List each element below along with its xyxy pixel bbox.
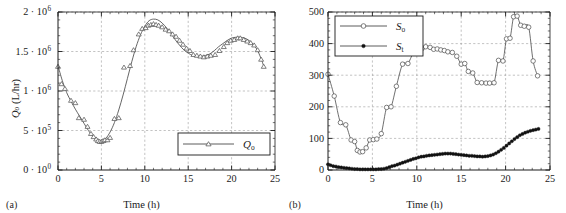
- y-tick-labels: 0100200300400500: [309, 6, 324, 175]
- data-point: [343, 123, 348, 128]
- svg-text:2 · 10: 2 · 10: [23, 6, 47, 17]
- y-tick-label: 400: [309, 38, 324, 49]
- y-tick-label: 1 · 106: [23, 84, 51, 96]
- x-tick-labels: 0510152025: [55, 173, 280, 184]
- data-point: [406, 61, 411, 66]
- data-point: [526, 25, 531, 30]
- x-tick-labels: 0510152025: [325, 173, 555, 184]
- x-tick-label: 10: [412, 173, 422, 184]
- data-point: [360, 149, 365, 154]
- y-tick-label: 100: [309, 133, 324, 144]
- data-point: [502, 146, 505, 149]
- chart-a-y-unit: (L/hr): [10, 79, 21, 107]
- data-point: [470, 71, 475, 76]
- x-tick-label: 0: [325, 173, 330, 184]
- data-point: [446, 50, 451, 55]
- y-tick-label: 200: [309, 101, 324, 112]
- x-tick-label: 15: [456, 173, 466, 184]
- x-tick-label: 10: [140, 173, 150, 184]
- y-tick-label: 0 · 100: [23, 163, 51, 175]
- svg-text:5 · 10: 5 · 10: [23, 125, 47, 136]
- svg-text:1.5 · 10: 1.5 · 10: [16, 46, 47, 57]
- data-point: [400, 62, 405, 67]
- svg-text:0 · 10: 0 · 10: [23, 164, 47, 175]
- chart-b-x-axis-title: Time (h): [283, 199, 566, 210]
- chart-a-canvas: 05101520250 · 1005 · 1051 · 1061.5 · 106…: [0, 0, 283, 213]
- data-point: [128, 63, 133, 67]
- x-tick-label: 25: [545, 173, 555, 184]
- y-tick-label: 5 · 105: [23, 124, 51, 136]
- y-tick-label: 0: [319, 164, 324, 175]
- y-tick-label: 2 · 106: [23, 5, 51, 17]
- data-point: [108, 135, 113, 139]
- y-tick-label: 1.5 · 106: [16, 45, 52, 57]
- data-point: [352, 139, 357, 144]
- data-point: [466, 69, 471, 74]
- data-point: [454, 54, 459, 59]
- svg-text:6: 6: [48, 45, 52, 53]
- y-tick-label: 300: [309, 70, 324, 81]
- svg-text:5: 5: [48, 124, 52, 132]
- data-point: [522, 24, 527, 29]
- series-line: [58, 19, 264, 141]
- series-markers: [56, 22, 267, 144]
- data-point: [531, 59, 536, 64]
- data-point: [177, 38, 182, 42]
- chart-a-caption: (a): [6, 199, 17, 210]
- data-point: [462, 61, 467, 66]
- data-point: [361, 24, 366, 29]
- chart-b-canvas: 05101520250100200300400500SoSt: [283, 0, 566, 213]
- data-point: [221, 45, 226, 49]
- data-point: [537, 127, 540, 130]
- data-point: [62, 86, 67, 90]
- x-tick-label: 5: [99, 173, 104, 184]
- data-point: [338, 120, 343, 125]
- data-point: [375, 137, 380, 142]
- x-tick-label: 20: [227, 173, 237, 184]
- data-point: [487, 81, 492, 86]
- y-tick-label: 500: [309, 6, 324, 17]
- data-point: [332, 94, 337, 99]
- fit-curves: [58, 19, 264, 141]
- data-point: [475, 80, 480, 85]
- svg-text:6: 6: [48, 84, 52, 92]
- chart-b-caption: (b): [289, 199, 301, 210]
- data-point: [259, 57, 264, 61]
- chart-a-y-axis-title: Qo (L/hr): [10, 79, 21, 118]
- chart-legend: SoSt: [335, 16, 423, 56]
- data-point: [508, 36, 513, 41]
- data-point: [423, 44, 428, 49]
- legend-box: [335, 16, 423, 56]
- svg-text:0: 0: [48, 163, 52, 171]
- data-point: [510, 140, 513, 143]
- data-point: [217, 48, 222, 52]
- data-point: [535, 74, 540, 79]
- data-point: [508, 142, 511, 145]
- data-point: [261, 64, 266, 68]
- data-point: [515, 14, 520, 19]
- data-point: [379, 131, 384, 136]
- data-point: [394, 84, 399, 89]
- data-point: [389, 105, 394, 110]
- data-point: [181, 42, 186, 46]
- data-point: [501, 59, 506, 64]
- chart-panel-b: 05101520250100200300400500SoSt Infl./eff…: [283, 0, 566, 213]
- data-point: [505, 144, 508, 147]
- x-tick-label: 5: [370, 173, 375, 184]
- svg-text:6: 6: [48, 5, 52, 13]
- data-point: [479, 81, 484, 86]
- data-point: [450, 50, 455, 55]
- data-point: [492, 81, 497, 86]
- data-point: [213, 52, 218, 56]
- svg-text:1 · 10: 1 · 10: [23, 85, 47, 96]
- x-tick-label: 0: [55, 173, 60, 184]
- data-point: [362, 44, 366, 48]
- data-point: [364, 146, 369, 151]
- x-tick-label: 20: [501, 173, 511, 184]
- figure-container: 05101520250 · 1005 · 1051 · 1061.5 · 106…: [0, 0, 566, 213]
- data-point: [496, 58, 501, 63]
- data-point: [121, 65, 126, 69]
- chart-panel-a: 05101520250 · 1005 · 1051 · 1061.5 · 106…: [0, 0, 283, 213]
- chart-legend: Qo: [178, 133, 270, 155]
- data-point: [82, 117, 87, 121]
